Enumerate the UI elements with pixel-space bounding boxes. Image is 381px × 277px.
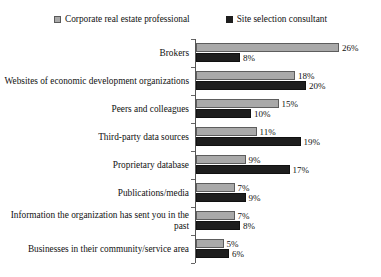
bar-row-series-b: 19% bbox=[196, 137, 320, 146]
bar-value-label: 18% bbox=[298, 71, 315, 81]
category-label: Proprietary database bbox=[0, 160, 189, 171]
legend-entry-site-selection-consultant: Site selection consultant bbox=[226, 11, 327, 27]
bar-row-series-a: 15% bbox=[196, 99, 298, 108]
bar-series-a[interactable] bbox=[196, 99, 279, 108]
bar-series-a[interactable] bbox=[196, 239, 224, 248]
bar-value-label: 26% bbox=[342, 43, 359, 53]
plot-area: Brokers26%8%Websites of economic develop… bbox=[0, 39, 381, 263]
bars-wrapper: 18%20% bbox=[196, 67, 381, 95]
bars-wrapper: 7%9% bbox=[196, 179, 381, 207]
bar-series-a[interactable] bbox=[196, 183, 235, 192]
bar-series-b[interactable] bbox=[196, 137, 301, 146]
bar-group: Third-party data sources11%19% bbox=[0, 123, 381, 151]
bar-row-series-a: 9% bbox=[196, 155, 261, 164]
bar-row-series-b: 9% bbox=[196, 193, 261, 202]
bar-value-label: 9% bbox=[249, 155, 261, 165]
bar-value-label: 7% bbox=[238, 211, 250, 221]
category-label: Publications/media bbox=[0, 188, 189, 199]
bar-series-a[interactable] bbox=[196, 43, 339, 52]
bar-row-series-b: 8% bbox=[196, 221, 255, 230]
bar-row-series-b: 20% bbox=[196, 81, 326, 90]
bar-value-label: 8% bbox=[243, 221, 255, 231]
bar-series-a[interactable] bbox=[196, 71, 295, 80]
bar-value-label: 11% bbox=[260, 127, 276, 137]
bar-series-b[interactable] bbox=[196, 81, 306, 90]
axis-tick bbox=[191, 263, 195, 264]
chart-legend: Corporate real estate professional Site … bbox=[0, 11, 381, 27]
legend-swatch-icon-series-a bbox=[54, 16, 61, 23]
bar-row-series-b: 17% bbox=[196, 165, 309, 174]
bar-series-b[interactable] bbox=[196, 249, 229, 258]
bar-series-a[interactable] bbox=[196, 211, 235, 220]
bar-row-series-a: 5% bbox=[196, 239, 239, 248]
bar-row-series-a: 7% bbox=[196, 211, 250, 220]
legend-label-series-a: Corporate real estate professional bbox=[65, 14, 190, 24]
bar-group: Peers and colleagues15%10% bbox=[0, 95, 381, 123]
bars-wrapper: 15%10% bbox=[196, 95, 381, 123]
category-label: Third-party data sources bbox=[0, 132, 189, 143]
grouped-bar-chart: Corporate real estate professional Site … bbox=[0, 0, 381, 277]
bars-wrapper: 26%8% bbox=[196, 39, 381, 67]
category-label: Businesses in their community/service ar… bbox=[0, 244, 189, 255]
bar-value-label: 5% bbox=[227, 239, 239, 249]
category-label: Brokers bbox=[0, 48, 189, 59]
bar-value-label: 17% bbox=[293, 165, 310, 175]
bar-value-label: 15% bbox=[282, 99, 299, 109]
legend-label-series-b: Site selection consultant bbox=[237, 14, 327, 24]
legend-entry-corporate-real-estate-professional: Corporate real estate professional bbox=[54, 11, 190, 27]
bar-series-b[interactable] bbox=[196, 109, 251, 118]
bar-row-series-a: 18% bbox=[196, 71, 315, 80]
bar-group: Websites of economic development organiz… bbox=[0, 67, 381, 95]
bar-group: Proprietary database9%17% bbox=[0, 151, 381, 179]
bar-value-label: 6% bbox=[232, 249, 244, 259]
bar-value-label: 7% bbox=[238, 183, 250, 193]
bar-row-series-b: 8% bbox=[196, 53, 255, 62]
bars-wrapper: 7%8% bbox=[196, 207, 381, 235]
bar-group: Businesses in their community/service ar… bbox=[0, 235, 381, 263]
bars-wrapper: 11%19% bbox=[196, 123, 381, 151]
bar-value-label: 8% bbox=[243, 53, 255, 63]
bar-series-a[interactable] bbox=[196, 155, 246, 164]
legend-swatch-icon-series-b bbox=[226, 16, 233, 23]
bars-wrapper: 5%6% bbox=[196, 235, 381, 263]
bar-group: Publications/media7%9% bbox=[0, 179, 381, 207]
bar-value-label: 9% bbox=[249, 193, 261, 203]
bar-row-series-a: 7% bbox=[196, 183, 250, 192]
bar-value-label: 19% bbox=[304, 137, 321, 147]
bar-series-b[interactable] bbox=[196, 193, 246, 202]
bar-series-b[interactable] bbox=[196, 221, 240, 230]
category-label: Information the organization has sent yo… bbox=[0, 210, 189, 232]
bar-value-label: 20% bbox=[309, 81, 326, 91]
bar-series-b[interactable] bbox=[196, 165, 290, 174]
bar-value-label: 10% bbox=[254, 109, 271, 119]
bar-group: Information the organization has sent yo… bbox=[0, 207, 381, 235]
bar-row-series-b: 6% bbox=[196, 249, 244, 258]
bar-series-a[interactable] bbox=[196, 127, 257, 136]
bar-series-b[interactable] bbox=[196, 53, 240, 62]
bar-row-series-a: 26% bbox=[196, 43, 359, 52]
bar-row-series-b: 10% bbox=[196, 109, 271, 118]
bar-group: Brokers26%8% bbox=[0, 39, 381, 67]
bars-wrapper: 9%17% bbox=[196, 151, 381, 179]
bar-row-series-a: 11% bbox=[196, 127, 276, 136]
category-label: Websites of economic development organiz… bbox=[0, 76, 189, 87]
category-label: Peers and colleagues bbox=[0, 104, 189, 115]
